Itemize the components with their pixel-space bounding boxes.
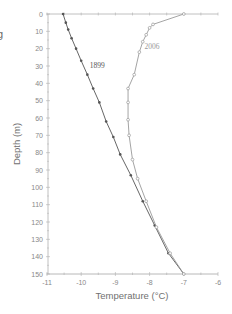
data-point: [136, 177, 139, 180]
data-point: [155, 226, 158, 229]
data-point: [127, 118, 130, 121]
x-tick-label: -7: [181, 279, 187, 286]
data-point: [86, 73, 89, 76]
data-point: [129, 174, 132, 177]
y-tick-label: 30: [35, 63, 43, 70]
data-point: [67, 28, 70, 31]
data-point: [119, 153, 122, 156]
y-tick-label: 130: [31, 236, 43, 243]
y-tick-label: 150: [31, 271, 43, 278]
y-tick-label: 80: [35, 149, 43, 156]
x-tick-label: -10: [76, 279, 86, 286]
data-point: [145, 33, 148, 36]
y-tick-label: 140: [31, 253, 43, 260]
series-label-2006: 2006: [144, 42, 159, 51]
data-point: [70, 37, 73, 40]
x-tick-label: -11: [42, 279, 52, 286]
data-point: [148, 26, 151, 29]
data-point: [145, 200, 148, 203]
data-point: [131, 158, 134, 161]
x-axis: -11-10-9-8-7-6: [42, 272, 221, 286]
y-tick-label: 0: [39, 11, 43, 18]
x-axis-title: Temperature (°C): [96, 290, 169, 301]
data-point: [127, 87, 130, 90]
data-point: [128, 134, 131, 137]
x-tick-label: -8: [146, 279, 152, 286]
data-point: [65, 21, 68, 24]
x-tick-label: -9: [112, 279, 118, 286]
y-tick-label: 50: [35, 97, 43, 104]
data-point: [138, 51, 141, 54]
y-tick-label: 100: [31, 184, 43, 191]
x-tick-label: -6: [215, 279, 221, 286]
y-tick-label: 110: [32, 201, 43, 208]
y-tick-label: 40: [35, 80, 43, 87]
data-point: [182, 273, 185, 276]
data-point: [133, 73, 136, 76]
series-label-1899: 1899: [90, 61, 105, 70]
data-point: [169, 252, 172, 255]
data-point: [141, 200, 144, 203]
series-labels: 18992006: [90, 42, 160, 70]
y-tick-label: 70: [35, 132, 43, 139]
data-point: [127, 101, 130, 104]
data-point: [152, 23, 155, 26]
data-point: [112, 136, 115, 139]
y-tick-label: 90: [35, 167, 43, 174]
y-tick-label: 60: [35, 115, 43, 122]
temperature-depth-chart: 0102030405060708090100110120130140150 -1…: [0, 0, 232, 314]
y-tick-label: 10: [35, 28, 43, 35]
data-point: [80, 60, 83, 63]
data-point: [182, 13, 185, 16]
data-point: [98, 101, 101, 104]
data-point: [75, 47, 78, 50]
y-axis: 0102030405060708090100110120130140150: [31, 11, 50, 278]
series-1899: [62, 13, 185, 276]
y-axis-title: Depth (m): [11, 123, 22, 165]
top-x-axis: [47, 13, 218, 16]
y-tick-label: 20: [35, 45, 43, 52]
data-point: [105, 120, 108, 123]
series-group: [62, 13, 185, 276]
y-tick-label: 120: [31, 219, 43, 226]
series-2006: [127, 13, 186, 276]
data-point: [92, 87, 95, 90]
data-point: [62, 13, 65, 16]
